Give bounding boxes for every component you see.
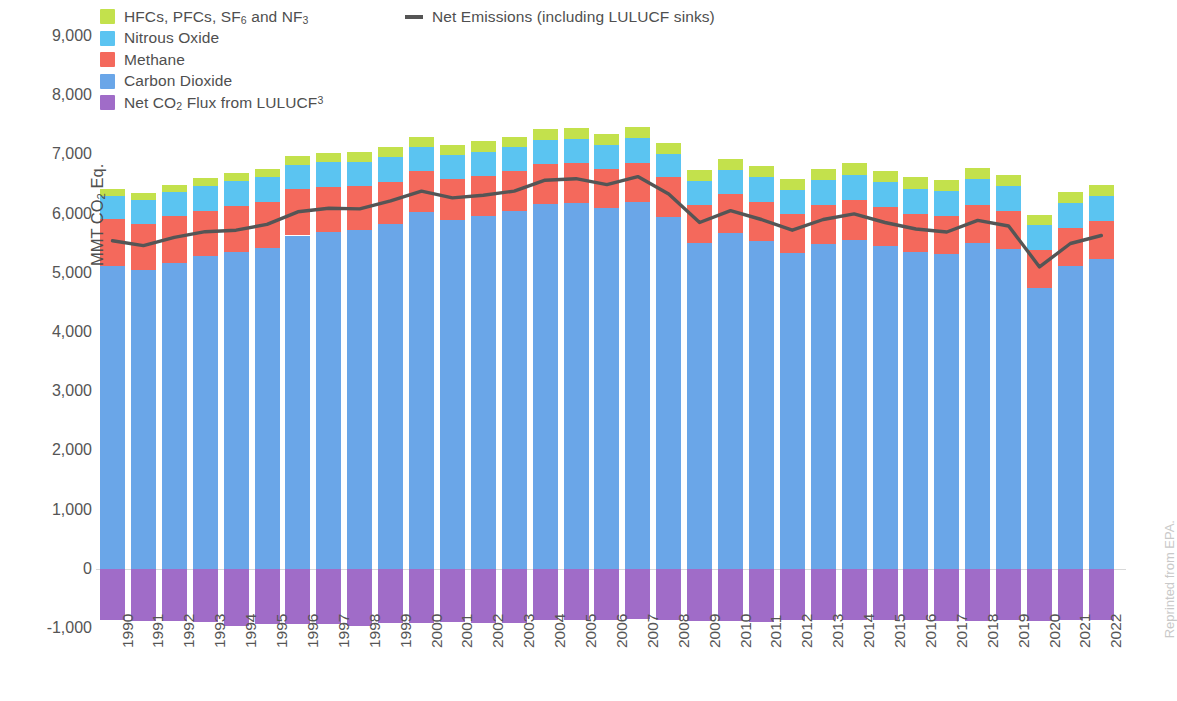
x-tick-1998: 1998 [366,614,384,648]
bar-segment [996,211,1021,249]
bar-segment [193,256,218,569]
bar-1999 [378,6,403,630]
bar-segment [533,164,558,204]
bar-segment [162,263,187,569]
bar-segment [656,143,681,154]
x-tick-1991: 1991 [149,614,167,648]
bar-segment [594,134,619,145]
bar-segment [625,163,650,203]
x-tick-2020: 2020 [1046,614,1064,648]
x-tick-2017: 2017 [953,614,971,648]
x-tick-2011: 2011 [767,615,785,648]
bar-segment [440,179,465,220]
bar-segment [255,169,280,177]
bar-1997 [316,6,341,630]
y-tick-7000: 7,000 [0,145,92,163]
bar-segment [934,216,959,254]
bar-2022 [1089,6,1114,630]
bar-segment [471,216,496,569]
bar-segment [564,163,589,203]
bar-2004 [533,6,558,630]
bar-segment [316,187,341,232]
x-tick-1999: 1999 [397,614,415,648]
bar-segment [780,179,805,190]
bar-2006 [594,6,619,630]
bar-segment [502,211,527,569]
bar-segment [285,189,310,235]
bar-segment [131,200,156,224]
bar-segment [842,163,867,175]
bar-segment [656,217,681,569]
bar-segment [471,141,496,152]
bar-segment [193,178,218,185]
bar-segment [687,205,712,243]
x-tick-2014: 2014 [860,614,878,648]
bar-segment [965,168,990,180]
y-tick-9000: 9,000 [0,27,92,45]
bar-segment [903,189,928,214]
bar-segment [625,127,650,139]
bar-segment [255,177,280,201]
bar-segment [255,248,280,569]
bar-segment [749,177,774,201]
y-tick-8000: 8,000 [0,86,92,104]
bar-1993 [193,6,218,630]
bar-2015 [873,6,898,630]
bar-segment [625,202,650,568]
bar-1996 [285,6,310,630]
bar-segment [996,249,1021,569]
x-tick-2007: 2007 [644,614,662,648]
bar-segment [502,147,527,171]
y-tick-0: 0 [0,560,92,578]
bar-segment [873,171,898,182]
x-tick-2018: 2018 [984,614,1002,648]
x-tick-2003: 2003 [520,614,538,648]
bar-segment [193,211,218,256]
bar-2000 [409,6,434,630]
bar-segment [1027,250,1052,288]
bar-segment [1027,288,1052,569]
bar-segment [1027,225,1052,250]
bar-segment [687,170,712,181]
x-tick-2009: 2009 [706,614,724,648]
bar-1994 [224,6,249,630]
bar-segment [316,153,341,162]
chart-plot-area: 9,0008,0007,0006,0005,0004,0003,0002,000… [96,6,1126,630]
bar-segment [564,203,589,569]
bar-segment [162,216,187,263]
bar-segment [131,270,156,569]
bar-segment [965,179,990,204]
bar-segment [1058,203,1083,228]
bar-segment [440,155,465,179]
bar-segment [316,162,341,187]
bar-segment [780,214,805,253]
bar-segment-lulucf [533,569,558,620]
bar-segment [903,177,928,188]
bar-segment [409,171,434,212]
bar-segment [594,169,619,209]
bar-segment [285,165,310,189]
bar-segment [193,186,218,211]
bar-segment [656,177,681,216]
bar-segment [749,202,774,241]
bar-segment [285,156,310,165]
bar-2008 [656,6,681,630]
bar-2020 [1027,6,1052,630]
x-tick-2016: 2016 [922,614,940,648]
bar-2001 [440,6,465,630]
bar-segment [811,244,836,568]
bar-segment [934,180,959,191]
bar-segment [749,166,774,177]
bar-2011 [749,6,774,630]
bar-segment [687,243,712,569]
bar-segment [471,176,496,216]
bar-segment [440,145,465,155]
x-tick-1992: 1992 [180,614,198,648]
bar-segment [996,175,1021,186]
bar-segment [502,171,527,211]
bar-segment [1027,215,1052,226]
bar-segment [224,181,249,206]
y-tick-3000: 3,000 [0,382,92,400]
bar-segment [378,182,403,225]
x-tick-1993: 1993 [211,614,229,648]
